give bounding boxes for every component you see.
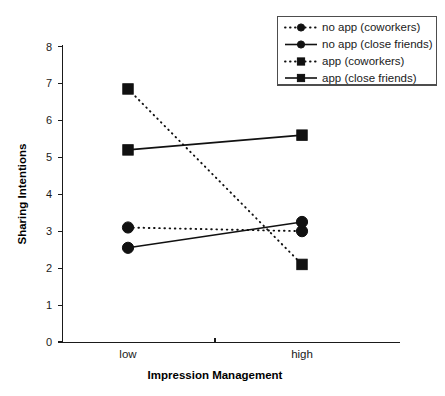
legend-label-no-app-close-friends: no app (close friends) [322,38,433,50]
y-tick-label-1: 1 [46,299,52,311]
y-tick-label-4: 4 [46,188,52,200]
legend-square-marker-icon [297,58,304,65]
y-tick-label-5: 5 [46,151,52,163]
x-tick-label-low: low [119,348,137,360]
data-point-square [123,84,133,94]
legend-square-marker-icon [297,74,304,81]
y-tick-label-7: 7 [46,77,52,89]
legend-circle-marker-icon [297,41,304,48]
y-tick-label-8: 8 [46,41,52,53]
y-tick-label-6: 6 [46,114,52,126]
data-point-circle [122,242,133,253]
x-axis-title: Impression Management [148,369,283,381]
y-axis-tick-labels: 8 7 6 5 4 3 2 1 0 [46,41,52,349]
data-point-square [123,145,133,155]
data-point-circle [296,216,307,227]
legend: no app (coworkers) no app (close friends… [278,17,437,86]
chart-figure: 8 7 6 5 4 3 2 1 0 Sharing Intentions low… [0,0,445,396]
legend-label-app-coworkers: app (coworkers) [322,55,405,67]
y-tick-label-3: 3 [46,225,52,237]
data-point-square [297,130,307,140]
interaction-line-chart: 8 7 6 5 4 3 2 1 0 Sharing Intentions low… [0,0,445,396]
x-tick-label-high: high [291,348,313,360]
y-tick-label-2: 2 [46,262,52,274]
y-tick-label-0: 0 [46,336,52,348]
legend-circle-marker-icon [297,24,304,31]
data-point-circle [122,222,133,233]
y-axis-title: Sharing Intentions [16,144,28,245]
legend-label-no-app-coworkers: no app (coworkers) [322,21,421,33]
legend-label-app-close-friends: app (close friends) [322,72,417,84]
data-point-square [297,259,307,269]
